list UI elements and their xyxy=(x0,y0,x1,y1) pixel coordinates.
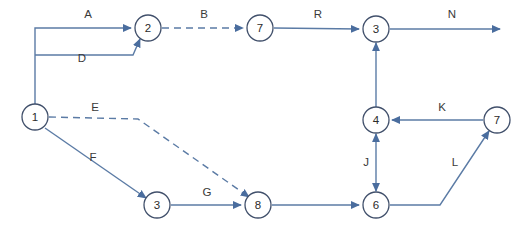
edge-a-path xyxy=(35,28,131,104)
edge-label-j: J xyxy=(363,156,369,168)
node-8-label: 8 xyxy=(255,199,261,211)
edge-l-path xyxy=(390,131,489,205)
node-7-top-label: 7 xyxy=(257,22,263,34)
edge-label-g: G xyxy=(203,186,212,198)
node-1-label: 1 xyxy=(32,111,38,123)
edge-e-path xyxy=(49,117,249,197)
node-3-top[interactable]: 3 xyxy=(363,16,389,42)
node-7-right[interactable]: 7 xyxy=(484,107,510,133)
network-diagram-svg: 1 2 7 3 4 7 3 8 xyxy=(0,0,518,231)
edge-d-path xyxy=(35,39,140,55)
node-3-bottom-label: 3 xyxy=(154,199,160,211)
node-2[interactable]: 2 xyxy=(135,15,161,41)
edge-r-path xyxy=(274,28,359,29)
node-2-label: 2 xyxy=(145,22,151,34)
edge-f-path xyxy=(45,128,146,198)
node-6[interactable]: 6 xyxy=(363,192,389,218)
edge-label-l: L xyxy=(452,156,459,168)
node-7-top[interactable]: 7 xyxy=(247,15,273,41)
node-3-bottom[interactable]: 3 xyxy=(144,192,170,218)
edge-label-e: E xyxy=(91,101,99,113)
node-7-right-label: 7 xyxy=(494,114,500,126)
edge-label-n: N xyxy=(448,8,456,20)
edge-label-f: F xyxy=(89,151,96,163)
node-8[interactable]: 8 xyxy=(245,192,271,218)
node-3-top-label: 3 xyxy=(373,23,379,35)
node-1[interactable]: 1 xyxy=(22,104,48,130)
edge-label-r: R xyxy=(314,8,322,20)
edge-label-a: A xyxy=(84,8,92,20)
edge-label-k: K xyxy=(438,101,446,113)
edge-label-d: D xyxy=(78,52,86,64)
node-6-label: 6 xyxy=(373,199,379,211)
network-diagram-canvas: 1 2 7 3 4 7 3 8 xyxy=(0,0,518,231)
node-4[interactable]: 4 xyxy=(363,107,389,133)
node-4-label: 4 xyxy=(373,114,380,126)
edge-label-b: B xyxy=(200,8,208,20)
